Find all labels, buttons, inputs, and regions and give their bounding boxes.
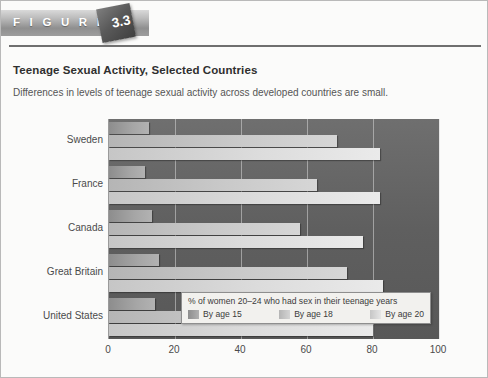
bar-great-britain-by-age-15 <box>109 254 159 266</box>
bar-canada-by-age-20 <box>109 236 363 248</box>
y-axis-label-great-britain: Great Britain <box>5 266 103 277</box>
x-axis-tick-60: 60 <box>300 344 311 355</box>
figure-banner: F I G U R E 3.3 <box>1 10 161 36</box>
legend-label: By age 20 <box>385 309 424 319</box>
bar-united-states-by-age-15 <box>109 298 155 310</box>
header-rule <box>9 45 481 47</box>
bar-sweden-by-age-20 <box>109 148 380 160</box>
y-axis-label-sweden: Sweden <box>5 134 103 145</box>
bar-france-by-age-15 <box>109 166 145 178</box>
bar-canada-by-age-18 <box>109 223 300 235</box>
chart-legend: % of women 20–24 who had sex in their te… <box>181 292 431 324</box>
x-axis-tick-20: 20 <box>168 344 179 355</box>
legend-title: % of women 20–24 who had sex in their te… <box>188 296 424 306</box>
bar-group <box>109 207 439 251</box>
chart-subtitle: Differences in levels of teenage sexual … <box>13 87 388 98</box>
bar-united-states-by-age-20 <box>109 324 373 336</box>
bar-france-by-age-18 <box>109 179 317 191</box>
legend-label: By age 15 <box>203 309 242 319</box>
x-axis-tick-80: 80 <box>366 344 377 355</box>
legend-item-by-age-18: By age 18 <box>279 309 333 319</box>
bar-canada-by-age-15 <box>109 210 152 222</box>
y-axis-label-canada: Canada <box>5 222 103 233</box>
figure-banner-word: F I G U R E <box>13 16 108 28</box>
legend-swatch-icon <box>370 310 381 319</box>
bar-group <box>109 119 439 163</box>
y-axis-labels: SwedenFranceCanadaGreat BritainUnited St… <box>1 119 103 339</box>
x-axis-tick-0: 0 <box>105 344 111 355</box>
legend-swatch-icon <box>188 310 199 319</box>
bar-france-by-age-20 <box>109 192 380 204</box>
bar-sweden-by-age-18 <box>109 135 337 147</box>
x-axis: 020406080100 <box>108 339 438 363</box>
bar-great-britain-by-age-20 <box>109 280 383 292</box>
bar-group <box>109 251 439 295</box>
x-axis-tick-100: 100 <box>430 344 447 355</box>
legend-items: By age 15By age 18By age 20 <box>188 309 424 319</box>
bar-great-britain-by-age-18 <box>109 267 347 279</box>
page-title: Teenage Sexual Activity, Selected Countr… <box>13 64 257 76</box>
bar-group <box>109 163 439 207</box>
legend-swatch-icon <box>279 310 290 319</box>
legend-item-by-age-20: By age 20 <box>370 309 424 319</box>
gridline <box>439 119 440 339</box>
bar-sweden-by-age-15 <box>109 122 149 134</box>
figure-container: F I G U R E 3.3 Teenage Sexual Activity,… <box>0 0 488 378</box>
x-axis-tick-40: 40 <box>234 344 245 355</box>
y-axis-label-united-states: United States <box>5 310 103 321</box>
legend-item-by-age-15: By age 15 <box>188 309 242 319</box>
y-axis-label-france: France <box>5 178 103 189</box>
legend-label: By age 18 <box>294 309 333 319</box>
